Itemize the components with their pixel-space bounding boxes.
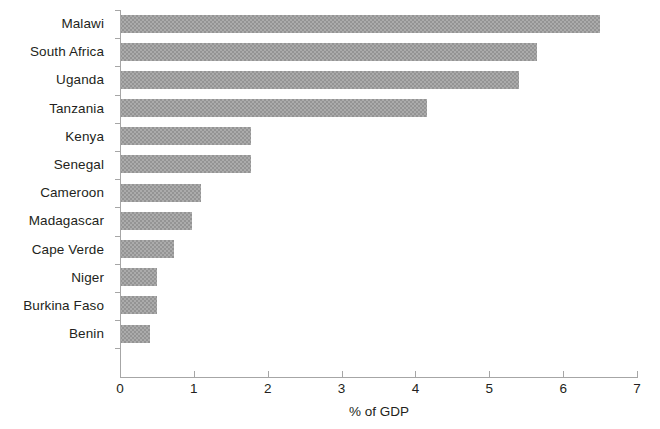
category-axis-labels: Malawi South Africa Uganda Tanzania Keny… <box>0 10 112 348</box>
bar <box>120 155 251 173</box>
y-axis-tick <box>115 151 120 152</box>
y-axis-tick <box>115 207 120 208</box>
x-axis-tick-label: 0 <box>105 381 135 396</box>
bar <box>120 127 251 145</box>
category-label: Madagascar <box>0 207 112 235</box>
y-axis-tick <box>115 66 120 67</box>
y-axis-tick <box>115 123 120 124</box>
x-axis-tick <box>120 371 121 377</box>
bar-row <box>120 179 637 207</box>
bar-row <box>120 320 637 348</box>
x-axis-tick-label: 7 <box>622 381 652 396</box>
x-axis-tick-label: 1 <box>179 381 209 396</box>
x-axis-tick-label: 6 <box>548 381 578 396</box>
bar <box>120 43 537 61</box>
x-axis-tick-label: 5 <box>474 381 504 396</box>
y-axis-tick <box>115 320 120 321</box>
y-axis-tick <box>115 264 120 265</box>
y-axis-tick <box>115 292 120 293</box>
bar-row <box>120 207 637 235</box>
x-axis-tick <box>563 371 564 377</box>
bar-row <box>120 123 637 151</box>
y-axis-tick <box>115 10 120 11</box>
y-axis-tick <box>115 179 120 180</box>
bar <box>120 296 157 314</box>
bar <box>120 325 150 343</box>
bar-row <box>120 38 637 66</box>
category-label: Senegal <box>0 151 112 179</box>
category-label: Cameroon <box>0 179 112 207</box>
bar <box>120 240 174 258</box>
bar-row <box>120 264 637 292</box>
x-axis-line <box>120 377 638 378</box>
bar <box>120 268 157 286</box>
category-label: South Africa <box>0 38 112 66</box>
category-label: Tanzania <box>0 95 112 123</box>
bar <box>120 15 600 33</box>
category-label: Niger <box>0 264 112 292</box>
bar <box>120 71 519 89</box>
bar-row <box>120 10 637 38</box>
x-axis-tick <box>637 371 638 377</box>
x-axis-tick <box>489 371 490 377</box>
x-axis-tick <box>415 371 416 377</box>
x-axis-tick <box>268 371 269 377</box>
x-axis-tick-label: 4 <box>400 381 430 396</box>
bar-row <box>120 151 637 179</box>
category-label: Uganda <box>0 66 112 94</box>
x-axis-title: % of GDP <box>120 404 638 419</box>
bar <box>120 99 427 117</box>
category-label: Malawi <box>0 10 112 38</box>
bar-chart: Malawi South Africa Uganda Tanzania Keny… <box>0 0 660 429</box>
category-label: Kenya <box>0 123 112 151</box>
x-axis-tick-label: 2 <box>253 381 283 396</box>
y-axis-tick <box>115 95 120 96</box>
x-axis-tick <box>194 371 195 377</box>
x-axis-tick-label: 3 <box>327 381 357 396</box>
bar-row <box>120 236 637 264</box>
y-axis-line <box>120 10 121 378</box>
bar <box>120 212 192 230</box>
plot-area <box>120 10 637 377</box>
y-axis-tick <box>115 236 120 237</box>
category-label: Cape Verde <box>0 236 112 264</box>
category-label: Burkina Faso <box>0 292 112 320</box>
y-axis-tick <box>115 348 120 349</box>
bar-row <box>120 95 637 123</box>
x-axis-tick <box>342 371 343 377</box>
y-axis-tick <box>115 38 120 39</box>
category-label: Benin <box>0 320 112 348</box>
bar-row <box>120 292 637 320</box>
bar <box>120 184 201 202</box>
bar-row <box>120 66 637 94</box>
